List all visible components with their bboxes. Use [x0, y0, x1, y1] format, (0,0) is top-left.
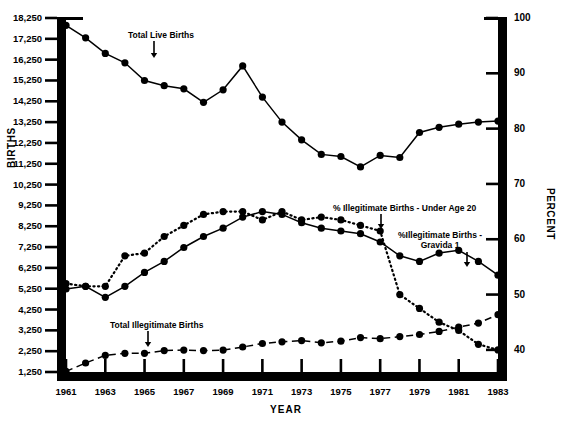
data-point-marker [121, 283, 128, 290]
data-point-marker [337, 227, 344, 234]
data-point-marker [200, 233, 207, 240]
data-point-marker [416, 258, 423, 265]
data-point-marker [377, 335, 384, 342]
data-point-marker [318, 151, 325, 158]
data-point-marker [161, 233, 168, 240]
data-point-marker [396, 252, 403, 259]
data-point-marker [141, 269, 148, 276]
data-point-marker [278, 119, 285, 126]
data-point-marker [62, 368, 69, 375]
data-point-marker [102, 283, 109, 290]
series-line [66, 212, 498, 350]
data-point-marker [337, 338, 344, 345]
data-point-marker [298, 219, 305, 226]
data-point-marker [62, 285, 69, 292]
data-point-marker [416, 331, 423, 338]
data-point-marker [180, 85, 187, 92]
data-point-marker [396, 333, 403, 340]
data-point-marker [494, 118, 501, 125]
data-point-marker [357, 334, 364, 341]
data-point-marker [161, 82, 168, 89]
x-axis-spine [57, 372, 507, 381]
data-point-marker [200, 211, 207, 218]
data-point-marker [377, 152, 384, 159]
data-point-marker [357, 222, 364, 229]
data-point-marker [220, 208, 227, 215]
data-point-marker [337, 153, 344, 160]
data-point-marker [337, 216, 344, 223]
data-point-marker [475, 341, 482, 348]
data-point-marker [82, 359, 89, 366]
data-point-marker [102, 50, 109, 57]
data-point-marker [82, 34, 89, 41]
data-point-marker [180, 347, 187, 354]
data-point-marker [494, 311, 501, 318]
data-point-marker [377, 238, 384, 245]
data-point-marker [455, 247, 462, 254]
data-point-marker [259, 340, 266, 347]
data-point-marker [377, 227, 384, 234]
data-point-marker [239, 343, 246, 350]
data-point-marker [239, 62, 246, 69]
annotation-arrow-pct-gravida-1-head [464, 262, 470, 267]
annotation-arrow-total-illegitimate-births-head [145, 342, 151, 347]
data-point-marker [278, 338, 285, 345]
data-point-marker [318, 225, 325, 232]
data-point-marker [141, 250, 148, 257]
data-point-marker [220, 347, 227, 354]
data-point-marker [102, 352, 109, 359]
series-0 [62, 22, 501, 171]
data-point-marker [318, 214, 325, 221]
data-point-marker [180, 244, 187, 251]
series-line [66, 25, 498, 167]
data-point-marker [278, 211, 285, 218]
data-point-marker [436, 124, 443, 131]
data-point-marker [436, 328, 443, 335]
y-axis-spine [57, 17, 66, 381]
data-point-marker [141, 350, 148, 357]
annotation-arrow-total-live-births-head [151, 53, 157, 58]
data-point-marker [220, 225, 227, 232]
data-point-marker [82, 283, 89, 290]
chart-figure: BIRTHS PERCENT YEAR 1,2502,2503,2504,250… [0, 0, 572, 425]
data-point-marker [475, 320, 482, 327]
data-point-marker [298, 337, 305, 344]
data-point-marker [259, 94, 266, 101]
plot-canvas [0, 0, 572, 425]
data-point-marker [121, 350, 128, 357]
data-point-marker [318, 339, 325, 346]
data-point-marker [200, 347, 207, 354]
y2-axis-spine [498, 17, 507, 372]
data-point-marker [161, 258, 168, 265]
data-point-marker [161, 347, 168, 354]
data-point-marker [180, 222, 187, 229]
data-point-marker [455, 121, 462, 128]
data-point-marker [416, 305, 423, 312]
data-point-marker [121, 59, 128, 66]
data-point-marker [357, 163, 364, 170]
data-point-marker [475, 119, 482, 126]
data-point-marker [494, 346, 501, 353]
data-point-marker [436, 250, 443, 257]
series-line [66, 212, 498, 298]
y-axis-top-cap [57, 17, 83, 20]
data-point-marker [141, 77, 148, 84]
data-point-marker [298, 136, 305, 143]
data-point-marker [102, 294, 109, 301]
data-point-marker [259, 216, 266, 223]
data-point-marker [239, 214, 246, 221]
data-point-marker [259, 208, 266, 215]
data-point-marker [475, 258, 482, 265]
data-point-marker [396, 154, 403, 161]
data-point-marker [62, 22, 69, 29]
data-point-marker [200, 99, 207, 106]
data-point-marker [121, 252, 128, 259]
data-point-marker [416, 129, 423, 136]
data-point-marker [396, 291, 403, 298]
data-point-marker [357, 230, 364, 237]
data-point-marker [436, 319, 443, 326]
data-point-marker [494, 272, 501, 279]
data-point-marker [455, 327, 462, 334]
data-point-marker [220, 86, 227, 93]
